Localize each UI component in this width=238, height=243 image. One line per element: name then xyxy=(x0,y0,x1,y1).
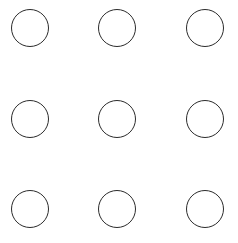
circle-r1-c3-icon xyxy=(186,9,224,47)
circle-r1-c1-icon xyxy=(11,9,49,47)
circle-grid xyxy=(0,0,238,243)
circle-r3-c2-icon xyxy=(98,190,136,228)
circle-r2-c2-icon xyxy=(98,100,136,138)
circle-r2-c1-icon xyxy=(11,100,49,138)
circle-r1-c2-icon xyxy=(98,9,136,47)
circle-r2-c3-icon xyxy=(186,100,224,138)
circle-r3-c3-icon xyxy=(186,190,224,228)
circle-r3-c1-icon xyxy=(11,190,49,228)
